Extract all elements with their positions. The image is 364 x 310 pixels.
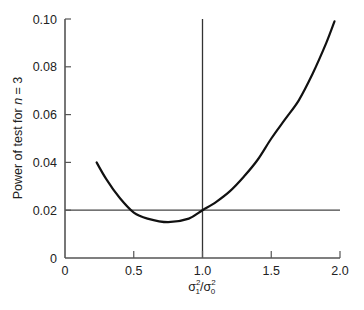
data-series [97, 21, 335, 222]
power-curve [97, 21, 335, 222]
x-tick-label: 1.5 [263, 264, 280, 278]
x-axis-label: σ21/σ20 [188, 278, 216, 296]
x-tick-label: 2.0 [331, 264, 348, 278]
x-tick-label: 0 [62, 264, 69, 278]
x-axis-ticks: 00.51.01.52.0 [62, 251, 349, 278]
reference-lines [65, 19, 340, 258]
y-tick-label: 0.10 [33, 13, 57, 27]
y-tick-label: 0.02 [33, 204, 57, 218]
y-tick-label: 0.08 [33, 60, 57, 74]
y-tick-label: 0 [50, 252, 57, 266]
power-curve-chart: 00.020.040.060.080.10 00.51.01.52.0 Powe… [0, 0, 364, 310]
x-tick-label: 1.0 [194, 264, 211, 278]
y-tick-label: 0.06 [33, 108, 57, 122]
y-axis-label: Power of test for n = 3 [11, 77, 25, 200]
x-tick-label: 0.5 [125, 264, 142, 278]
y-tick-label: 0.04 [33, 156, 57, 170]
